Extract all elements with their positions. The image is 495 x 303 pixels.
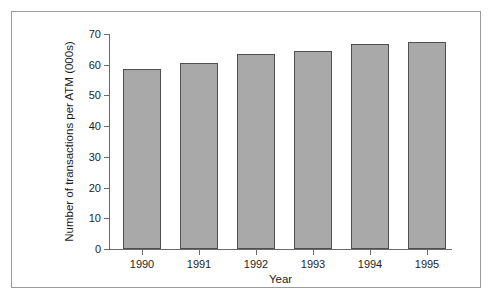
y-tick-mark	[104, 95, 109, 96]
y-tick-mark	[104, 249, 109, 250]
y-tick-mark	[104, 157, 109, 158]
y-tick-label: 40	[89, 121, 101, 132]
x-tick-label: 1995	[415, 259, 439, 270]
y-tick-label: 0	[95, 244, 101, 255]
x-tick-mark	[370, 250, 371, 255]
y-tick-label: 20	[89, 182, 101, 193]
x-tick-label: 1994	[358, 259, 382, 270]
y-tick-label: 50	[89, 90, 101, 101]
bar	[294, 51, 332, 249]
y-tick-mark	[104, 218, 109, 219]
bar	[123, 69, 161, 249]
y-tick-label: 30	[89, 151, 101, 162]
x-axis-line	[109, 249, 452, 250]
bar	[237, 54, 275, 249]
bar	[180, 63, 218, 249]
y-tick-label: 60	[89, 59, 101, 70]
x-tick-label: 1992	[244, 259, 268, 270]
x-tick-label: 1993	[301, 259, 325, 270]
y-axis-line	[109, 34, 110, 250]
y-tick-label: 10	[89, 213, 101, 224]
plot-area: 010203040506070 199019911992199319941995	[109, 34, 451, 249]
y-axis-title: Number of transactions per ATM (000s)	[62, 34, 76, 249]
x-tick-mark	[199, 250, 200, 255]
y-tick-mark	[104, 65, 109, 66]
x-tick-label: 1990	[130, 259, 154, 270]
x-tick-mark	[427, 250, 428, 255]
y-tick-mark	[104, 188, 109, 189]
y-tick-mark	[104, 126, 109, 127]
y-tick-mark	[104, 34, 109, 35]
bar	[408, 42, 446, 249]
x-tick-mark	[256, 250, 257, 255]
y-tick-label: 70	[89, 29, 101, 40]
x-axis-title: Year	[109, 274, 452, 286]
figure-frame: Number of transactions per ATM (000s) Ye…	[11, 11, 481, 288]
chart-page: Number of transactions per ATM (000s) Ye…	[0, 0, 495, 303]
x-tick-label: 1991	[187, 259, 211, 270]
bar	[351, 44, 389, 249]
x-tick-mark	[142, 250, 143, 255]
x-tick-mark	[313, 250, 314, 255]
